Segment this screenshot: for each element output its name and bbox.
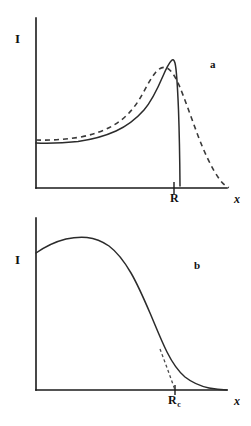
panel-a-y-axis-label: I xyxy=(15,32,20,45)
panel-b-label: b xyxy=(194,260,200,271)
panel-a-tick-label-R: R xyxy=(170,192,179,204)
panel-b-y-axis-label: I xyxy=(15,253,20,266)
panel-a: I x R a xyxy=(0,0,251,213)
panel-a-plot xyxy=(0,0,251,213)
figure-root: I x R a I x Rc b xyxy=(0,0,251,426)
panel-b-tick-label-subscript: c xyxy=(177,400,181,409)
panel-a-curve-solid xyxy=(36,60,180,186)
panel-a-curve-dashed xyxy=(36,67,229,187)
panel-b-plot xyxy=(0,213,251,426)
panel-b: I x Rc b xyxy=(0,213,251,426)
panel-b-x-axis-label: x xyxy=(234,395,240,407)
panel-b-tick-label-base: R xyxy=(168,393,177,407)
panel-a-x-axis-label: x xyxy=(234,193,240,205)
panel-b-tick-label-Rc: Rc xyxy=(168,394,181,406)
panel-b-curve-dashed-tangent xyxy=(160,349,175,390)
panel-a-label: a xyxy=(210,59,216,70)
